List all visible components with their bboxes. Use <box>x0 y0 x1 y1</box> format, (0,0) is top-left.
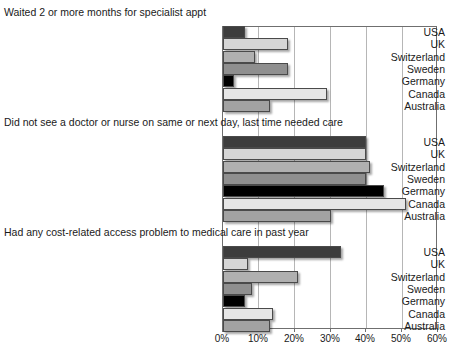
chart-row: Australia <box>0 210 449 222</box>
chart-row: UK <box>0 258 449 270</box>
chart-row: Sweden <box>0 173 449 185</box>
bar-usa <box>223 26 245 38</box>
bar-usa <box>223 136 366 148</box>
chart-row: Australia <box>0 320 449 332</box>
bar-switzerland <box>223 51 255 63</box>
chart-row: USA <box>0 246 449 258</box>
bar-sweden <box>223 283 252 295</box>
chart-row: Canada <box>0 308 449 320</box>
bar-uk <box>223 38 288 50</box>
bar-canada <box>223 88 327 100</box>
x-tick-label-30: 30% <box>310 333 350 344</box>
bar-australia <box>223 100 270 112</box>
bar-canada <box>223 198 406 210</box>
x-tick-label-40: 40% <box>345 333 385 344</box>
x-tick-label-50: 50% <box>381 333 421 344</box>
x-tick-label-60: 60% <box>417 333 449 344</box>
bar-germany <box>223 75 234 87</box>
chart-row: Germany <box>0 295 449 307</box>
x-tick-label-0: 0% <box>202 333 242 344</box>
x-tick-label-20: 20% <box>274 333 314 344</box>
chart-container: 0% 10% 20% 30% 40% 50% 60% Waited 2 or m… <box>0 0 449 352</box>
chart-row: Germany <box>0 75 449 87</box>
bar-usa <box>223 246 341 258</box>
chart-row: Switzerland <box>0 161 449 173</box>
bar-uk <box>223 258 248 270</box>
bar-switzerland <box>223 271 298 283</box>
panel-title-3: Had any cost-related access problem to m… <box>4 226 309 238</box>
chart-row: Germany <box>0 185 449 197</box>
category-label-sweden: Sweden <box>235 283 449 295</box>
panel-title-2: Did not see a doctor or nurse on same or… <box>4 116 343 128</box>
chart-row: Canada <box>0 88 449 100</box>
bar-uk <box>223 148 366 160</box>
chart-row: UK <box>0 38 449 50</box>
bar-sweden <box>223 173 366 185</box>
category-label-germany: Germany <box>235 75 449 87</box>
x-tick-label-10: 10% <box>238 333 278 344</box>
bar-australia <box>223 320 270 332</box>
bar-sweden <box>223 63 288 75</box>
bar-germany <box>223 185 384 197</box>
chart-row: UK <box>0 148 449 160</box>
category-label-uk: UK <box>235 258 449 270</box>
chart-row: Switzerland <box>0 271 449 283</box>
category-label-germany: Germany <box>235 295 449 307</box>
chart-row: Sweden <box>0 283 449 295</box>
chart-row: Sweden <box>0 63 449 75</box>
chart-row: USA <box>0 136 449 148</box>
chart-row: Canada <box>0 198 449 210</box>
bar-australia <box>223 210 331 222</box>
bar-canada <box>223 308 273 320</box>
panel-title-1: Waited 2 or more months for specialist a… <box>4 6 206 18</box>
category-label-usa: USA <box>235 26 449 38</box>
chart-row: USA <box>0 26 449 38</box>
category-label-switzerland: Switzerland <box>235 51 449 63</box>
bar-germany <box>223 295 245 307</box>
chart-row: Switzerland <box>0 51 449 63</box>
bar-switzerland <box>223 161 370 173</box>
chart-row: Australia <box>0 100 449 112</box>
